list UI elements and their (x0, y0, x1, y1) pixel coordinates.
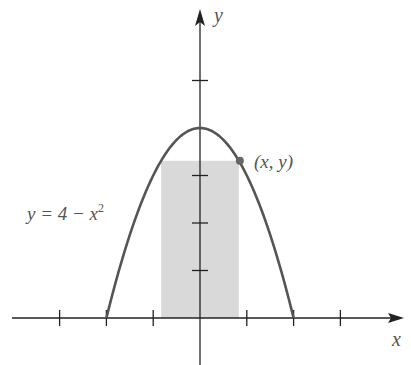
marked-point (236, 157, 244, 165)
curve-label-text: y = 4 − x (25, 203, 99, 224)
curve-label-exponent: 2 (98, 201, 104, 215)
x-axis-label: x (391, 328, 401, 350)
point-label-text: (x, y) (254, 151, 293, 173)
parabola-plot: x y (x, y) y = 4 − x2 (0, 0, 411, 365)
curve-label: y = 4 − x2 (25, 201, 104, 224)
y-axis-label: y (212, 4, 223, 27)
point-label: (x, y) (254, 151, 293, 173)
